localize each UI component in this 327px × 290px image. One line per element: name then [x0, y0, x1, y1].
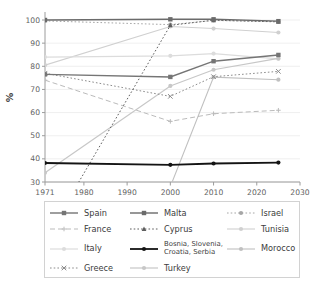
x-tick-label: 1971	[35, 188, 54, 197]
data-point-marker	[142, 266, 146, 270]
legend-label-bosnia-slovenia-croatia-serbia: Bosnia, Slovenia, Croatia, Serbia	[164, 241, 226, 256]
legend-label-morocco: Morocco	[261, 244, 295, 253]
legend-item-cyprus: Cyprus	[129, 224, 226, 234]
y-axis-label: %	[4, 91, 15, 105]
line-chart-figure: 3040506070809010019711980199020002010202…	[0, 0, 327, 290]
legend-label-france: France	[84, 225, 111, 234]
data-point-marker	[43, 171, 47, 175]
data-point-marker	[211, 17, 215, 21]
data-point-marker	[276, 30, 280, 34]
data-point-marker	[239, 246, 243, 250]
legend-line-sample-tunisia	[226, 224, 256, 234]
series-line-tunisia	[45, 26, 278, 65]
series-italy	[43, 51, 281, 61]
series-france	[43, 78, 281, 124]
data-point-marker	[168, 75, 172, 79]
legend-box: SpainMaltaIsraelFranceCyprusTunisiaItaly…	[44, 201, 300, 278]
series-greece	[43, 69, 281, 99]
legend-item-greece: Greece	[49, 263, 129, 273]
y-tick-label: 80	[30, 62, 40, 71]
data-point-marker	[43, 55, 47, 59]
legend-label-greece: Greece	[84, 264, 113, 273]
series-tunisia	[43, 24, 281, 67]
series-line-cyprus	[45, 20, 278, 200]
x-tick-label: 1980	[74, 188, 93, 197]
data-point-marker	[211, 68, 215, 72]
legend-item-turkey: Turkey	[129, 263, 226, 273]
legend-line-sample-cyprus	[129, 224, 159, 234]
data-point-marker	[276, 19, 280, 23]
series-bosnia-slovenia-croatia-serbia	[43, 160, 281, 167]
y-tick-label: 60	[30, 108, 40, 117]
legend-item-spain: Spain	[49, 208, 129, 218]
data-point-marker	[211, 161, 215, 165]
y-tick-label: 30	[30, 178, 40, 187]
data-point-marker	[276, 53, 280, 57]
data-point-marker	[43, 161, 47, 165]
series-line-israel	[45, 20, 278, 24]
legend-label-spain: Spain	[84, 209, 107, 218]
data-point-marker	[211, 26, 215, 30]
series-line-france	[45, 80, 278, 121]
y-tick-label: 50	[30, 131, 40, 140]
y-tick-label: 40	[30, 154, 40, 163]
legend-line-sample-france	[49, 224, 79, 234]
x-tick-label: 2000	[161, 188, 180, 197]
data-point-marker	[211, 59, 215, 63]
data-point-marker	[168, 17, 172, 21]
legend-item-bosnia-slovenia-croatia-serbia: Bosnia, Slovenia, Croatia, Serbia	[129, 241, 226, 256]
legend-line-sample-turkey	[129, 263, 159, 273]
data-point-marker	[168, 54, 172, 58]
data-point-marker	[142, 211, 146, 215]
data-point-marker	[276, 78, 280, 82]
y-tick-label: 90	[30, 39, 40, 48]
y-tick-label: 70	[30, 85, 40, 94]
x-tick-label: 2030	[290, 188, 309, 197]
legend-line-sample-israel	[226, 208, 256, 218]
legend-line-sample-greece	[49, 263, 79, 273]
data-point-marker	[168, 163, 172, 167]
data-point-marker	[62, 211, 66, 215]
data-point-marker	[142, 246, 146, 250]
legend-label-cyprus: Cyprus	[164, 225, 193, 234]
series-line-bosnia-slovenia-croatia-serbia	[45, 163, 278, 165]
x-tick-label: 2010	[204, 188, 223, 197]
legend-line-sample-italy	[49, 244, 79, 254]
legend-item-tunisia: Tunisia	[226, 224, 299, 234]
data-point-marker	[168, 84, 172, 88]
legend-label-italy: Italy	[84, 244, 102, 253]
series-morocco	[168, 75, 280, 189]
data-point-marker	[239, 227, 243, 231]
series-line-morocco	[170, 77, 278, 186]
data-point-marker	[43, 72, 47, 76]
legend-line-sample-morocco	[226, 244, 256, 254]
x-tick-label: 2020	[247, 188, 266, 197]
legend-item-morocco: Morocco	[226, 244, 299, 254]
legend-item-israel: Israel	[226, 208, 299, 218]
legend-item-france: France	[49, 224, 129, 234]
series-turkey	[43, 56, 281, 175]
legend-label-israel: Israel	[261, 209, 283, 218]
legend-label-malta: Malta	[164, 209, 187, 218]
legend-label-tunisia: Tunisia	[261, 225, 289, 234]
legend-line-sample-malta	[129, 208, 159, 218]
series-cyprus	[43, 18, 281, 200]
legend-line-sample-bosnia-slovenia-croatia-serbia	[129, 244, 159, 254]
data-point-marker	[239, 211, 243, 215]
data-point-marker	[276, 160, 280, 164]
data-point-marker	[211, 51, 215, 55]
legend-line-sample-spain	[49, 208, 79, 218]
legend-item-italy: Italy	[49, 244, 129, 254]
plot-area: 3040506070809010019711980199020002010202…	[0, 0, 327, 200]
x-tick-label: 1990	[117, 188, 136, 197]
y-tick-label: 100	[26, 16, 41, 25]
legend-label-turkey: Turkey	[164, 264, 191, 273]
legend-item-malta: Malta	[129, 208, 226, 218]
data-point-marker	[62, 246, 66, 250]
